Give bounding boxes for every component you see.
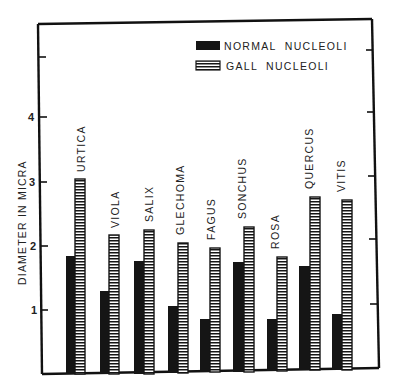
y-tick-4: 4 bbox=[28, 111, 35, 123]
bar-gall-salix bbox=[144, 230, 154, 374]
bar-normal-vitis bbox=[332, 314, 342, 370]
bar-chart: 4 3 2 1 DIAMETER IN MICRA NORMAL NUCLEOL… bbox=[0, 0, 393, 385]
bar-gall-vitis bbox=[342, 200, 352, 370]
bar-normal-quercus bbox=[299, 266, 310, 370]
y-tick-3: 3 bbox=[29, 176, 35, 188]
label-rosa: ROSA bbox=[269, 214, 281, 249]
label-glechoma: GLECHOMA bbox=[174, 165, 186, 236]
label-sonchus: SONCHUS bbox=[236, 157, 248, 219]
bar-gall-viola bbox=[109, 235, 119, 374]
bar-gall-quercus bbox=[310, 197, 320, 370]
bar-group-viola: VIOLA bbox=[100, 191, 121, 374]
label-viola: VIOLA bbox=[109, 191, 121, 228]
bar-gall-rosa bbox=[277, 257, 287, 371]
label-salix: SALIX bbox=[143, 186, 155, 222]
legend-label-normal: NORMAL NUCLEOLI bbox=[224, 40, 348, 52]
label-urtica: URTICA bbox=[75, 125, 87, 172]
legend-swatch-gall bbox=[196, 61, 220, 70]
bar-gall-sonchus bbox=[244, 227, 254, 372]
label-fagus: FAGUS bbox=[205, 198, 217, 240]
bar-gall-glechoma bbox=[178, 243, 188, 373]
bar-normal-sonchus bbox=[233, 262, 244, 372]
bar-group-glechoma: GLECHOMA bbox=[168, 165, 188, 374]
bar-group-fagus: FAGUS bbox=[200, 198, 220, 372]
bar-group-urtica: URTICA bbox=[66, 125, 87, 374]
y-tick-1: 1 bbox=[31, 304, 37, 316]
bar-group-vitis: VITIS bbox=[332, 159, 352, 370]
bar-group-salix: SALIX bbox=[134, 186, 155, 374]
y-tick-2: 2 bbox=[30, 240, 36, 252]
bar-gall-urtica bbox=[75, 179, 85, 374]
legend: NORMAL NUCLEOLI GALL NUCLEOLI bbox=[196, 40, 348, 72]
label-vitis: VITIS bbox=[335, 159, 347, 192]
legend-swatch-normal bbox=[196, 41, 220, 50]
bar-gall-fagus bbox=[210, 248, 220, 372]
legend-label-gall: GALL NUCLEOLI bbox=[226, 60, 329, 72]
label-quercus: QUERCUS bbox=[303, 127, 315, 189]
bar-group-sonchus: SONCHUS bbox=[233, 157, 254, 372]
bar-normal-rosa bbox=[267, 319, 277, 371]
bar-group-quercus: QUERCUS bbox=[299, 127, 320, 370]
bar-normal-fagus bbox=[200, 319, 210, 372]
bar-group-rosa: ROSA bbox=[267, 214, 287, 371]
bar-normal-viola bbox=[100, 291, 109, 374]
y-axis-label: DIAMETER IN MICRA bbox=[16, 160, 28, 285]
bar-normal-glechoma bbox=[168, 306, 178, 373]
bar-normal-urtica bbox=[66, 256, 75, 374]
bar-normal-salix bbox=[134, 261, 144, 374]
